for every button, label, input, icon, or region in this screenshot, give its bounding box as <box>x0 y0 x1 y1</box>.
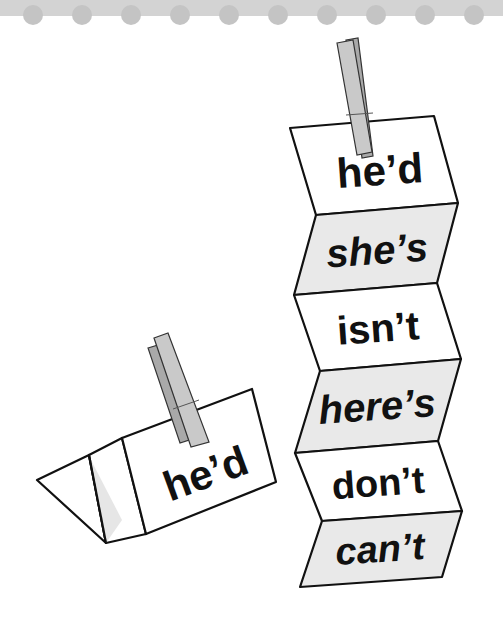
strip-word-4: here’s <box>317 380 437 432</box>
illustration: he’d she’s isn’t here’s don’t can’t he’d <box>0 0 503 627</box>
strip-word-3: isn’t <box>335 303 420 353</box>
strip-word-1: he’d <box>335 144 424 197</box>
strip-word-5: don’t <box>330 459 426 507</box>
strip-word-6: can’t <box>334 525 427 573</box>
strip-word-2: she’s <box>325 225 429 276</box>
